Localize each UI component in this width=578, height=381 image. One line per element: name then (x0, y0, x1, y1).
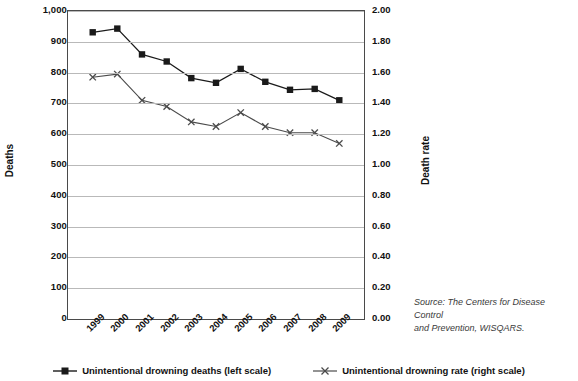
x-marker-icon (313, 366, 337, 376)
y-axis-left-tick: 900 (21, 36, 67, 46)
y-axis-right-tick: 0.60 (372, 221, 418, 231)
gridline (68, 11, 364, 12)
y-axis-left-title: Deaths (4, 131, 15, 191)
y-axis-right-title: Death rate (420, 126, 431, 196)
source-note: Source: The Centers for Disease Control … (414, 296, 572, 335)
data-point-marker (114, 25, 120, 31)
gridline (68, 227, 364, 228)
source-line-2: and Prevention, WISQARS. (414, 322, 572, 335)
data-point-marker (238, 66, 244, 72)
y-axis-left-tick: 300 (21, 221, 67, 231)
legend-item[interactable]: Unintentional drowning deaths (left scal… (53, 366, 271, 376)
source-line-1: Source: The Centers for Disease Control (414, 296, 572, 322)
y-axis-left: 01002003004005006007008009001,000 (13, 0, 67, 330)
data-point-marker (312, 86, 318, 92)
legend-label: Unintentional drowning deaths (left scal… (82, 366, 271, 376)
gridline (68, 103, 364, 104)
y-axis-left-tick: 700 (21, 97, 67, 107)
y-axis-right-tick: 1.60 (372, 67, 418, 77)
data-point-marker (213, 80, 219, 86)
gridline (68, 288, 364, 289)
y-axis-left-tick: 200 (21, 251, 67, 261)
y-axis-left-tick: 400 (21, 190, 67, 200)
legend-item[interactable]: Unintentional drowning rate (right scale… (313, 366, 525, 376)
series-line (93, 29, 340, 101)
gridline (68, 165, 364, 166)
y-axis-left-tick: 800 (21, 67, 67, 77)
data-point-marker (287, 87, 293, 93)
chart-legend: Unintentional drowning deaths (left scal… (0, 366, 578, 376)
data-point-marker (139, 51, 145, 57)
y-axis-right-tick: 1.20 (372, 128, 418, 138)
y-axis-left-tick: 0 (21, 313, 67, 323)
square-marker-icon (53, 366, 77, 376)
data-point-marker (188, 75, 194, 81)
y-axis-right-tick: 1.40 (372, 97, 418, 107)
y-axis-right-tick: 0.80 (372, 190, 418, 200)
gridline (68, 42, 364, 43)
y-axis-left-tick: 1,000 (21, 5, 67, 15)
x-axis: 1999200020012002200320042005200620072008… (67, 322, 365, 366)
gridline (68, 73, 364, 74)
gridline (68, 257, 364, 258)
y-axis-left-tick: 500 (21, 159, 67, 169)
data-point-marker (164, 58, 170, 64)
y-axis-right-tick: 0.20 (372, 282, 418, 292)
data-point-marker (262, 79, 268, 85)
y-axis-right-tick: 1.80 (372, 36, 418, 46)
data-point-marker (238, 109, 244, 115)
chart-figure: 01002003004005006007008009001,000 Deaths… (0, 0, 578, 381)
data-point-marker (336, 140, 342, 146)
y-axis-left-tick: 600 (21, 128, 67, 138)
gridline (68, 196, 364, 197)
gridline (68, 134, 364, 135)
y-axis-right: 0.000.200.400.600.801.001.201.401.601.80… (365, 0, 425, 330)
y-axis-left-tick: 100 (21, 282, 67, 292)
legend-label: Unintentional drowning rate (right scale… (342, 366, 525, 376)
y-axis-right-tick: 0.00 (372, 313, 418, 323)
data-point-marker (90, 29, 96, 35)
plot-area (67, 10, 365, 320)
y-axis-right-tick: 1.00 (372, 159, 418, 169)
y-axis-right-tick: 2.00 (372, 5, 418, 15)
y-axis-right-tick: 0.40 (372, 251, 418, 261)
